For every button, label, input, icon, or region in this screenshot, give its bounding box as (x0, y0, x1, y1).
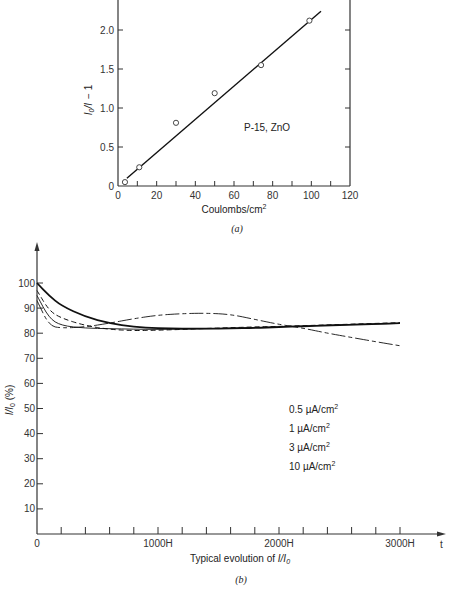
x-tick-label: 0 (34, 538, 40, 549)
y-tick-label: 50 (24, 403, 36, 414)
x-tick-label: 0 (115, 190, 121, 201)
chart-b-legend: 0.5 µA/cm21 µA/cm23 µA/cm210 µA/cm2 (289, 403, 338, 472)
y-tick-label: 2.0 (100, 25, 114, 36)
chart-b-y-ticks: 102030405060708090100 (18, 278, 43, 515)
chart-a-annotation: P-15, ZnO (244, 122, 290, 133)
chart-a: 020406080100120 00.51.01.52.0 P-15, ZnO … (83, 0, 359, 235)
x-tick-label: 80 (267, 190, 279, 201)
chart-a-fit-line (127, 11, 321, 178)
legend-entry: 3 µA/cm2 (289, 441, 330, 453)
chart-a-x-ticks: 020406080100120 (115, 181, 359, 201)
x-tick-label: 120 (342, 190, 359, 201)
legend-entry: 1 µA/cm2 (289, 422, 330, 434)
y-tick-label: 30 (24, 453, 36, 464)
series-line (37, 296, 400, 330)
data-point-marker (173, 120, 178, 125)
x-tick-label: 100 (303, 190, 320, 201)
x-tick-label: 40 (190, 190, 202, 201)
chart-b: t 01000H2000H3000H 102030405060708090100… (4, 242, 446, 586)
data-point-marker (137, 165, 142, 170)
data-point-marker (122, 180, 127, 185)
y-tick-label: 20 (24, 478, 36, 489)
y-tick-label: 40 (24, 428, 36, 439)
y-tick-label: 10 (24, 503, 36, 514)
data-point-marker (212, 91, 217, 96)
legend-entry: 0.5 µA/cm2 (289, 403, 338, 415)
y-tick-label: 0 (108, 181, 114, 192)
x-tick-label: 20 (151, 190, 163, 201)
svg-text:I0/I− 1: I0/I− 1 (83, 84, 95, 115)
x-tick-label: 3000H (385, 538, 414, 549)
x-tick-label: 1000H (143, 538, 172, 549)
y-axis-arrow-icon (35, 242, 40, 251)
y-tick-label: 60 (24, 378, 36, 389)
svg-text:I/I0 (%): I/I0 (%) (4, 385, 16, 416)
x-tick-label: 2000H (264, 538, 293, 549)
figure-canvas: 020406080100120 00.51.01.52.0 P-15, ZnO … (0, 0, 452, 593)
chart-b-caption: (b) (235, 574, 247, 586)
x-tick-label: 60 (228, 190, 240, 201)
series-line (37, 283, 400, 329)
legend-entry: 10 µA/cm2 (289, 460, 335, 472)
chart-b-t-label: t (440, 539, 443, 550)
chart-a-x-label-text: Coulombs/cm (201, 204, 262, 215)
data-point-marker (258, 63, 263, 68)
chart-b-series-lines (37, 283, 400, 346)
x-axis-arrow-icon (437, 532, 446, 537)
data-point-marker (307, 18, 312, 23)
y-tick-label: 90 (24, 303, 36, 314)
chart-b-x-label: Typical evolution of I/I0 (190, 553, 290, 565)
series-line (37, 301, 400, 346)
y-tick-label: 70 (24, 353, 36, 364)
chart-a-caption: (a) (231, 223, 243, 235)
chart-b-y-label: I/I0 (%) (4, 385, 16, 416)
y-tick-label: 80 (24, 328, 36, 339)
y-tick-label: 1.5 (100, 64, 114, 75)
chart-a-x-label: Coulombs/cm2 (201, 203, 266, 215)
chart-b-x-ticks: 01000H2000H3000H (34, 527, 415, 549)
y-tick-label: 100 (18, 278, 35, 289)
y-tick-label: 1.0 (100, 103, 114, 114)
chart-a-y-label: I0/I− 1 (83, 84, 95, 115)
y-tick-label: 0.5 (100, 142, 114, 153)
